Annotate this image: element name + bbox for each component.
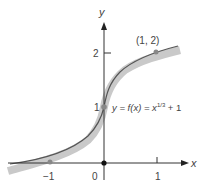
tick-label-x-neg1: −1	[43, 171, 55, 182]
point-0-1	[101, 104, 107, 110]
function-equation: y = f(x) = x1/3 + 1	[111, 102, 181, 113]
y-axis-label: y	[98, 6, 106, 18]
point-neg1-0	[48, 160, 53, 165]
point-label-1-2: (1, 2)	[136, 35, 159, 46]
tick-label-x-1: 1	[155, 171, 161, 182]
equation-main: y = f(x) = x	[111, 102, 158, 113]
equation-suffix: + 1	[165, 102, 181, 113]
x-axis-label: x	[190, 157, 197, 169]
x-axis-arrow-icon	[181, 160, 189, 166]
tick-label-x-0: 0	[92, 171, 98, 182]
function-graph: y x −1 0 1 1 2 (1, 2) y = f(x) = x1/3 + …	[0, 0, 202, 189]
tick-label-y-2: 2	[93, 48, 99, 59]
tick-label-y-1: 1	[94, 102, 100, 113]
point-1-2	[154, 50, 159, 55]
origin-point	[101, 160, 106, 165]
y-axis-arrow-icon	[101, 22, 107, 30]
